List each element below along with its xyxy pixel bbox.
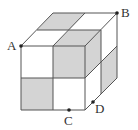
label-a: A bbox=[7, 39, 16, 52]
cube-drawing bbox=[0, 0, 138, 130]
point-b bbox=[115, 11, 119, 15]
point-c bbox=[67, 108, 71, 112]
label-b: B bbox=[121, 6, 130, 19]
shade-right-bottom-back bbox=[101, 46, 117, 94]
shade-front-bottom-left bbox=[21, 78, 53, 110]
cube-diagram: A B C D bbox=[0, 0, 138, 130]
label-c: C bbox=[64, 114, 73, 127]
point-a bbox=[19, 44, 23, 48]
label-d: D bbox=[95, 102, 104, 115]
shade-front-top-right bbox=[53, 46, 85, 78]
